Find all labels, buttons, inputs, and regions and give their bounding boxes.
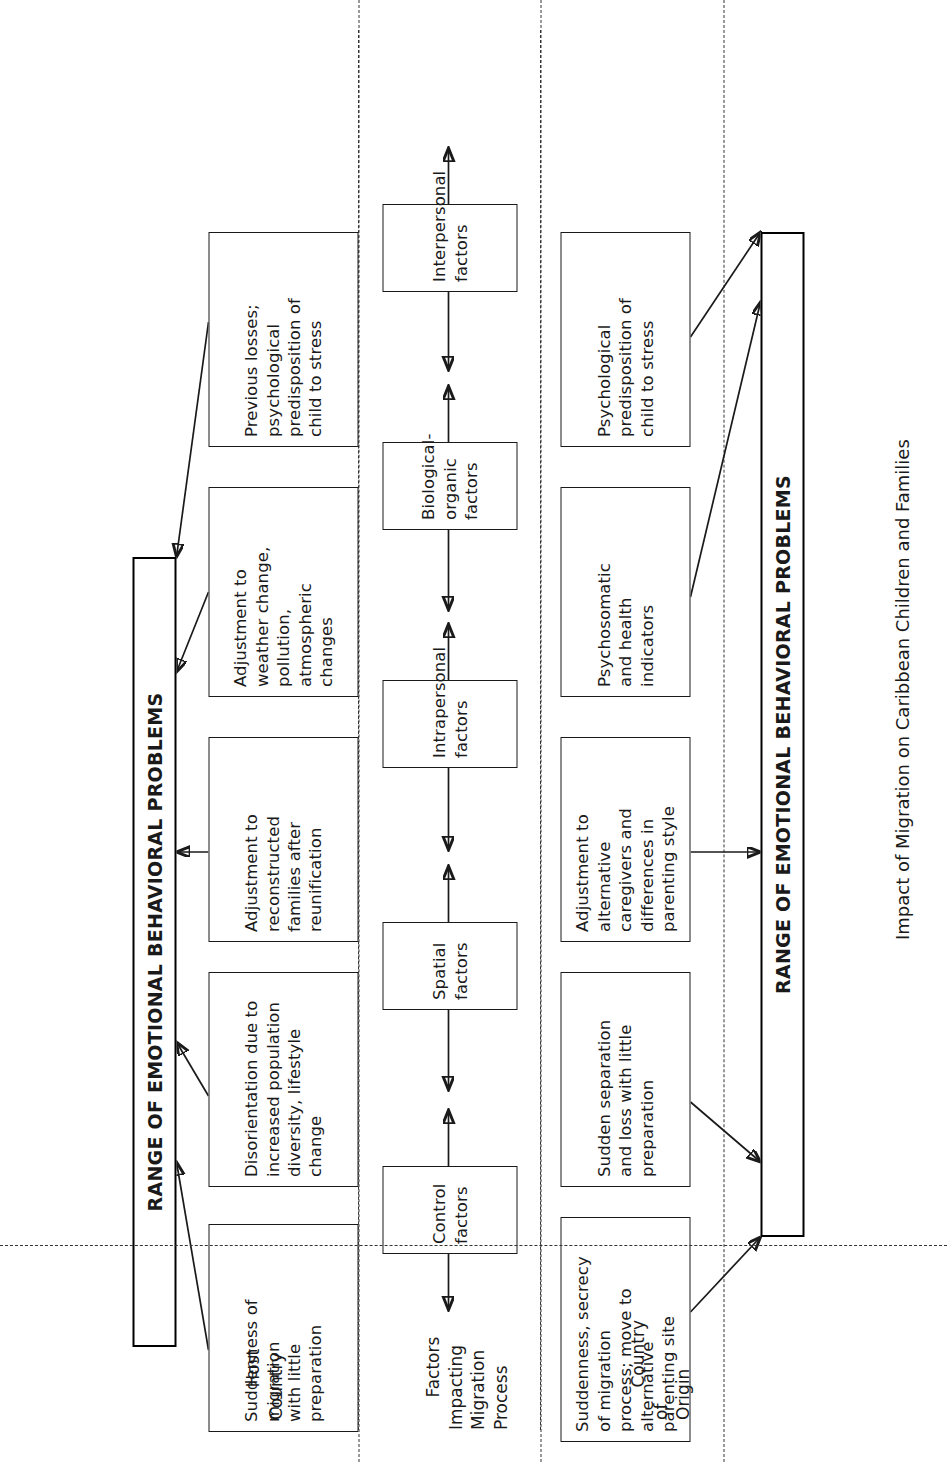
node-origin-intrapersonal-text: Adjustment toalternativecaregivers anddi… [571, 747, 678, 932]
node-host-spatial[interactable]: Disorientation due toincreased populatio… [208, 972, 358, 1187]
node-factor-intrapersonal-text: Intrapersonalfactors [428, 690, 471, 758]
node-origin-control[interactable]: Suddenness, secrecyof migrationprocess; … [560, 1217, 690, 1442]
node-origin-control-text: Suddenness, secrecyof migrationprocess; … [571, 1227, 678, 1432]
lane-separator-label-strip [723, 0, 724, 1462]
node-host-interpersonal[interactable]: Previous losses;psychologicalpredisposit… [208, 232, 358, 447]
node-origin-biological-text: Psychosomaticand healthindicators [593, 497, 657, 687]
node-host-biological-text: Adjustment toweather change,pollution,at… [229, 497, 336, 687]
node-factor-intrapersonal[interactable]: Intrapersonalfactors [382, 680, 517, 768]
node-origin-biological-organic[interactable]: Psychosomaticand healthindicators [560, 487, 690, 697]
node-factor-interpersonal-text: Interpersonalfactors [428, 214, 471, 282]
node-origin-intrapersonal[interactable]: Adjustment toalternativecaregivers anddi… [560, 737, 690, 942]
node-factor-control-text: Controlfactors [428, 1176, 471, 1244]
node-host-control-text: Suddenness ofmigrationwith littleprepara… [240, 1234, 326, 1422]
node-factor-interpersonal[interactable]: Interpersonalfactors [382, 204, 517, 292]
node-origin-spatial-text: Sudden separationand loss with littlepre… [593, 982, 657, 1177]
node-factor-biological-organic[interactable]: Biological-organicfactors [382, 442, 517, 530]
outcome-bar-origin-label: RANGE OF EMOTIONAL BEHAVIORAL PROBLEMS [771, 475, 793, 994]
node-factor-biological-text: Biological-organicfactors [417, 452, 481, 520]
lane-separator-factors-origin [540, 0, 541, 1462]
node-host-biological-organic[interactable]: Adjustment toweather change,pollution,at… [208, 487, 358, 697]
node-host-control[interactable]: Suddenness ofmigrationwith littleprepara… [208, 1224, 358, 1432]
node-factor-spatial-text: Spatialfactors [428, 932, 471, 1000]
migration-impact-diagram: RANGE OF EMOTIONAL BEHAVIORAL PROBLEMS R… [0, 0, 947, 1462]
node-origin-interpersonal[interactable]: Psychologicalpredisposition ofchild to s… [560, 232, 690, 447]
node-factor-control[interactable]: Controlfactors [382, 1166, 517, 1254]
outcome-bar-country-of-origin: RANGE OF EMOTIONAL BEHAVIORAL PROBLEMS [760, 232, 804, 1237]
node-factor-spatial[interactable]: Spatialfactors [382, 922, 517, 1010]
node-host-intrapersonal-text: Adjustment toreconstructedfamilies after… [240, 747, 326, 932]
outcome-bar-host-label: RANGE OF EMOTIONAL BEHAVIORAL PROBLEMS [143, 693, 165, 1212]
node-host-interpersonal-text: Previous losses;psychologicalpredisposit… [240, 242, 326, 437]
node-origin-interpersonal-text: Psychologicalpredisposition ofchild to s… [593, 242, 657, 437]
figure-rotator: RANGE OF EMOTIONAL BEHAVIORAL PROBLEMS R… [0, 0, 947, 1462]
outcome-bar-host-country: RANGE OF EMOTIONAL BEHAVIORAL PROBLEMS [132, 557, 176, 1347]
node-origin-spatial[interactable]: Sudden separationand loss with littlepre… [560, 972, 690, 1187]
node-host-intrapersonal[interactable]: Adjustment toreconstructedfamilies after… [208, 737, 358, 942]
node-host-spatial-text: Disorientation due toincreased populatio… [240, 982, 326, 1177]
